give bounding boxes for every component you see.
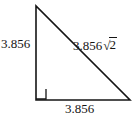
hypotenuse-coefficient: 3.856	[73, 38, 102, 53]
radicand-value: 2	[109, 37, 117, 52]
radical-icon: √2	[102, 38, 117, 53]
triangle-figure: 3.856 3.856 3.856√2	[0, 0, 135, 118]
right-angle-marker-icon	[36, 89, 46, 99]
hypotenuse-label: 3.856√2	[73, 38, 117, 53]
vertical-leg-label: 3.856	[1, 37, 30, 50]
triangle-outline	[36, 6, 130, 100]
horizontal-leg-label: 3.856	[65, 102, 94, 115]
